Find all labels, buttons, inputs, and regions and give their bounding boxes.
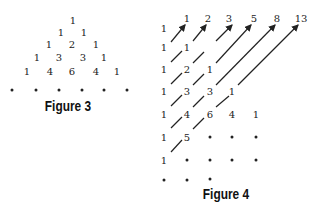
f4-dot — [231, 136, 234, 139]
f4-dot — [186, 179, 189, 182]
f4-dot — [209, 159, 212, 162]
f4-sum-4: 8 — [274, 13, 280, 24]
f4-dot — [255, 159, 258, 162]
f4-r4-c3: 4 — [229, 109, 235, 120]
f4-sum-5: 13 — [295, 13, 308, 24]
f4-sum-3: 5 — [251, 13, 257, 24]
f4-r0-c0: 1 — [161, 23, 167, 34]
f4-dot — [186, 159, 189, 162]
f4-dot — [209, 136, 212, 139]
f4-r2-c0: 1 — [161, 64, 167, 75]
f4-r4-c4: 1 — [253, 109, 259, 120]
f4-r4-c0: 1 — [161, 109, 167, 120]
f4-r6-c0: 1 — [161, 155, 167, 166]
figure-4-arrows — [0, 0, 318, 218]
f4-r3-c2: 3 — [207, 86, 213, 97]
f4-r3-c3: 1 — [229, 86, 235, 97]
figure-4-caption: Figure 4 — [203, 186, 249, 202]
f4-r2-c2: 1 — [207, 64, 213, 75]
f4-sum-2: 3 — [226, 13, 232, 24]
f4-sum-1: 2 — [205, 13, 211, 24]
f4-sum-0: 1 — [184, 13, 190, 24]
f4-r5-c0: 1 — [161, 132, 167, 143]
f4-r1-c1: 1 — [184, 42, 190, 53]
f4-r3-c0: 1 — [161, 86, 167, 97]
f4-r3-c1: 3 — [184, 86, 190, 97]
f4-dot — [255, 136, 258, 139]
f4-dot — [231, 159, 234, 162]
f4-dot — [163, 179, 166, 182]
f4-r4-c1: 4 — [184, 109, 190, 120]
f4-r5-c1: 5 — [184, 132, 190, 143]
f4-dot — [209, 178, 212, 181]
f4-r1-c0: 1 — [161, 42, 167, 53]
f4-r4-c2: 6 — [207, 109, 213, 120]
f4-r2-c1: 2 — [184, 64, 190, 75]
